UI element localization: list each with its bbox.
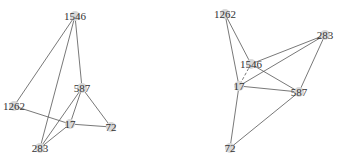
node-1262: 1262 — [214, 8, 236, 20]
edge-1546-1262 — [14, 16, 75, 106]
edge-1262-17 — [225, 14, 239, 86]
graph-canvas: 154658712621772283 126228315461758772 — [0, 0, 344, 165]
node-label: 1546 — [64, 10, 87, 22]
node-283: 283 — [32, 142, 49, 154]
node-72: 72 — [106, 121, 117, 133]
node-1546: 1546 — [240, 58, 263, 70]
left-graph: 154658712621772283 — [3, 10, 117, 154]
node-label: 283 — [32, 142, 49, 154]
node-label: 1546 — [240, 58, 263, 70]
node-label: 587 — [74, 82, 91, 94]
node-label: 283 — [317, 29, 334, 41]
node-1546: 1546 — [64, 10, 87, 22]
node-17: 17 — [234, 80, 246, 92]
edge-587-283 — [40, 88, 82, 148]
node-587: 587 — [74, 82, 91, 94]
edge-1546-587 — [75, 16, 82, 88]
edge-72-587 — [230, 92, 299, 148]
node-17: 17 — [65, 118, 77, 130]
node-283: 283 — [317, 29, 334, 41]
node-587: 587 — [291, 86, 308, 98]
node-label: 17 — [234, 80, 246, 92]
edge-1262-1546 — [225, 14, 251, 64]
node-label: 72 — [106, 121, 117, 133]
right-graph: 126228315461758772 — [214, 8, 334, 154]
node-1262: 1262 — [3, 100, 25, 112]
node-label: 72 — [225, 142, 236, 154]
node-label: 587 — [291, 86, 308, 98]
node-label: 17 — [65, 118, 77, 130]
node-label: 1262 — [214, 8, 236, 20]
edge-17-72 — [230, 86, 239, 148]
node-label: 1262 — [3, 100, 25, 112]
node-72: 72 — [225, 142, 236, 154]
